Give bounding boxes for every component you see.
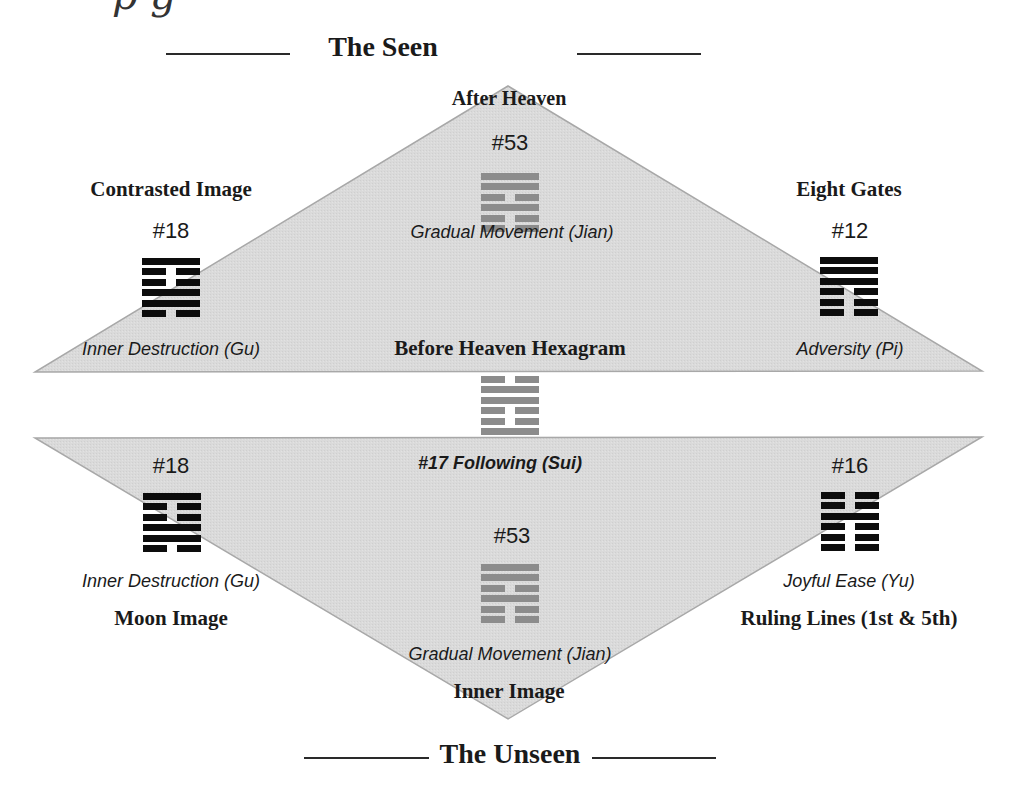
broken-line [821,492,879,499]
solid-line [481,397,539,404]
eight-gates-title: Eight Gates [796,177,902,202]
upper-center-number: #53 [492,130,529,156]
upper-left-number: #18 [153,218,190,244]
bottom-heading-rule-right [592,757,716,759]
hexagram-17 [481,376,539,435]
hexagram-16 [821,492,879,551]
hexagram-12 [820,257,878,316]
solid-line [142,258,200,265]
top-heading-rule-right [577,53,701,55]
solid-line [821,513,879,520]
upper-left-name: Inner Destruction (Gu) [82,339,260,360]
inner-image-label: Inner Image [453,679,564,704]
lower-left-number: #18 [153,453,190,479]
solid-line [481,183,539,190]
upper-center-name: Gradual Movement (Jian) [410,222,613,243]
solid-line [143,535,201,542]
solid-line [481,204,539,211]
solid-line [820,257,878,264]
hexagram-53-lower [481,564,539,623]
after-heaven-label: After Heaven [452,87,567,110]
ruling-lines-title: Ruling Lines (1st & 5th) [740,606,957,631]
broken-line [143,514,201,521]
broken-line [820,288,878,295]
broken-line [481,376,539,383]
solid-line [481,564,539,571]
broken-line [143,503,201,510]
broken-line [481,418,539,425]
broken-line [481,585,539,592]
broken-line [142,268,200,275]
before-heaven-label: Before Heaven Hexagram [394,336,626,361]
solid-line [481,386,539,393]
solid-line [143,493,201,500]
upper-right-number: #12 [832,218,869,244]
broken-line [142,279,200,286]
solid-line [481,574,539,581]
lower-right-name: Joyful Ease (Yu) [783,571,914,592]
broken-line [820,299,878,306]
solid-line [142,289,200,296]
broken-line [481,407,539,414]
broken-line [821,544,879,551]
broken-line [821,523,879,530]
bottom-heading-rule-left [304,757,429,759]
solid-line [142,300,200,307]
contrasted-image-title: Contrasted Image [90,177,252,202]
broken-line [142,310,200,317]
top-heading-rule-left [166,53,290,55]
broken-line [481,606,539,613]
solid-line [143,524,201,531]
lower-center-name: Gradual Movement (Jian) [408,644,611,665]
solid-line [481,428,539,435]
lower-center-number: #53 [494,523,531,549]
broken-line [143,545,201,552]
broken-line [821,534,879,541]
solid-line [481,595,539,602]
top-heading: The Seen [328,31,438,63]
bottom-heading: The Unseen [440,738,581,770]
lower-right-number: #16 [832,453,869,479]
broken-line [820,309,878,316]
broken-line [481,215,539,222]
moon-image-title: Moon Image [114,606,228,631]
broken-line [481,194,539,201]
solid-line [820,278,878,285]
solid-line [820,267,878,274]
broken-line [821,502,879,509]
following-caption: #17 Following (Sui) [418,453,582,474]
solid-line [481,173,539,180]
hexagram-18-lower [143,493,201,552]
lower-left-name: Inner Destruction (Gu) [82,571,260,592]
broken-line [481,616,539,623]
upper-right-name: Adversity (Pi) [796,339,903,360]
hexagram-18-upper [142,258,200,317]
